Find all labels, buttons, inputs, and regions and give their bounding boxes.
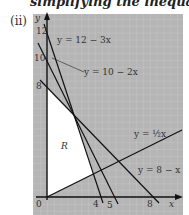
x-tick-8: 8 — [147, 199, 153, 209]
x-tick-4: 4 — [93, 199, 99, 209]
label-line3: y = ½x — [133, 129, 166, 139]
inequality-graph: y = 12 − 3x y = 10 − 2x y = ½x y = 8 − x… — [0, 0, 189, 215]
label-line2: y = 10 − 2x — [83, 67, 138, 77]
x-axis-label: x — [169, 199, 174, 209]
label-line4: y = 8 − x — [137, 165, 180, 175]
y-tick-8: 8 — [36, 81, 42, 91]
y-axis-label: y — [34, 13, 41, 23]
y-tick-12: 12 — [36, 26, 47, 36]
label-line1: y = 12 − 3x — [56, 35, 111, 45]
y-tick-10: 10 — [34, 53, 46, 63]
region-label: R — [60, 141, 68, 151]
origin-label: 0 — [36, 199, 42, 209]
x-tick-5: 5 — [107, 200, 113, 210]
